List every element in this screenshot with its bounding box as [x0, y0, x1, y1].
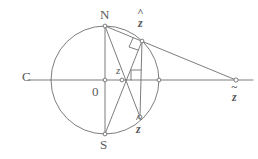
label-z-hat-upper: ^ z [138, 14, 143, 30]
label-z-hat-lower: ^ z [136, 120, 141, 136]
node-origin [103, 78, 107, 82]
label-z-hat-lower-stack: ^ z [136, 120, 141, 136]
circumflex-accent-icon: ^ [135, 113, 141, 124]
label-south-pole: S [100, 138, 107, 151]
label-z-tilde-base: z [232, 91, 237, 103]
circumflex-accent-icon: ^ [137, 7, 143, 18]
label-z-hat-lower-base: z [136, 123, 141, 135]
diagram-canvas [0, 0, 258, 159]
right-angle-marker-axis [131, 70, 141, 80]
chord-z-hat-upper-to-lower [140, 41, 142, 117]
node-z-hat-upper [140, 39, 144, 43]
chord-north-to-z-hat-lower [105, 26, 140, 117]
label-z-hat-upper-stack: ^ z [138, 14, 143, 30]
label-z-tilde: ~ z [232, 88, 237, 104]
tilde-accent-icon: ~ [231, 81, 237, 92]
node-circle-right-intersection [157, 78, 161, 82]
stereographic-diagram: N S C 0 z ^ z ^ z ~ z [0, 0, 258, 159]
label-z-hat-upper-base: z [138, 17, 143, 29]
label-z-tilde-stack: ~ z [232, 88, 237, 104]
label-origin: 0 [92, 85, 99, 98]
right-angle-marker-upper [129, 38, 138, 50]
label-north-pole: N [100, 8, 110, 21]
node-point-z [120, 78, 124, 82]
node-south-pole [103, 132, 107, 136]
label-point-z: z [116, 65, 120, 76]
node-north-pole [103, 24, 107, 28]
label-axis-c: C [22, 70, 31, 83]
ray-north-to-z-tilde [105, 26, 236, 80]
